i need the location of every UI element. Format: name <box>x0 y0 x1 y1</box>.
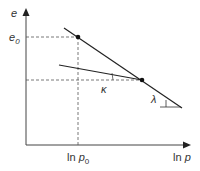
ncl-line <box>64 28 182 108</box>
point-e0-p0 <box>76 35 81 40</box>
e-lnp-diagram: e e0 κ λ ln p0 ln p <box>0 0 200 171</box>
point-intersection <box>140 78 145 83</box>
x-axis-label: ln p <box>173 151 191 163</box>
lambda-label: λ <box>150 93 156 105</box>
y-axis-label: e <box>11 7 17 19</box>
x-axis-arrow-icon <box>183 142 191 149</box>
p0-label: ln p0 <box>67 151 90 166</box>
y-axis-arrow-icon <box>23 8 30 16</box>
kappa-angle-mark <box>112 73 113 80</box>
e0-label: e0 <box>9 31 20 46</box>
kappa-label: κ <box>101 83 107 95</box>
